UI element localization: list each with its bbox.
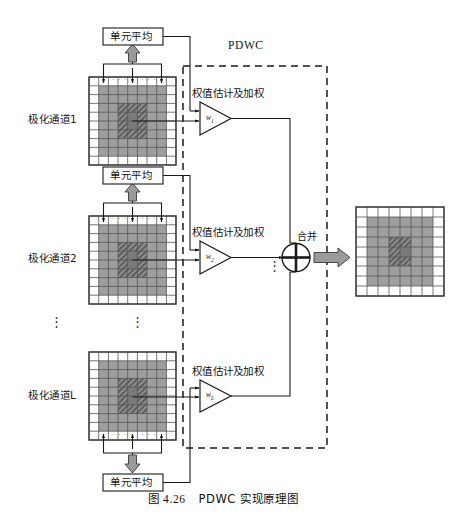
combiner-node bbox=[282, 244, 310, 272]
tap-ellipsis-La: · · · bbox=[112, 432, 128, 439]
channel-label-L: 极化通道L bbox=[28, 390, 76, 401]
weight-triangle-channel-L bbox=[200, 380, 231, 412]
avg-box-label-channel-2[interactable]: 单元平均 bbox=[110, 170, 152, 181]
channel-label-2: 极化通道2 bbox=[28, 253, 77, 264]
tap-ellipsis-Lb: · · · bbox=[141, 432, 157, 439]
weight-symbol-L: wL bbox=[206, 391, 214, 401]
figure-caption: 图 4.26 PDWC 实现原理图 bbox=[148, 494, 298, 506]
weight-triangle-channel-2 bbox=[200, 241, 231, 274]
figure-canvas: 极化通道1 极化通道2 极化通道L 单元平均 单元平均 单元平均 权值估计及加权… bbox=[0, 0, 459, 515]
weight-symbol-2: w2 bbox=[206, 253, 214, 263]
weight-estimation-label-2: 权值估计及加权 bbox=[192, 227, 264, 238]
weighted-output-line-channel-1 bbox=[231, 119, 290, 244]
avg-feed-arrow-channel-L bbox=[125, 455, 140, 473]
avg-box-label-channel-1[interactable]: 单元平均 bbox=[110, 31, 152, 42]
avg-feed-arrow-channel-1 bbox=[125, 44, 140, 62]
tap-ellipsis-1a: · · · bbox=[112, 77, 128, 84]
weight-symbol-1: w1 bbox=[206, 114, 214, 124]
channel-ellipsis-left: ⋮ bbox=[50, 318, 63, 325]
weighted-output-line-channel-L bbox=[231, 272, 290, 396]
combiner-label: 合并 bbox=[297, 232, 318, 242]
tap-ellipsis-1b: · · · bbox=[141, 77, 157, 84]
input-grid-channel-L bbox=[89, 352, 176, 440]
avg-feed-arrow-channel-2 bbox=[125, 183, 140, 201]
channel-ellipsis-grid: ⋮ bbox=[131, 318, 144, 325]
weight-estimation-label-1: 权值估计及加权 bbox=[192, 88, 264, 99]
tap-ellipsis-2a: · · · bbox=[112, 216, 128, 223]
output-grid bbox=[356, 207, 444, 296]
pdwc-label: PDWC bbox=[228, 40, 264, 52]
weight-estimation-label-L: 权值估计及加权 bbox=[192, 366, 264, 377]
tap-ellipsis-2b: · · · bbox=[141, 216, 157, 223]
weight-triangle-channel-1 bbox=[200, 102, 231, 135]
avg-box-label-channel-L[interactable]: 单元平均 bbox=[110, 477, 152, 488]
combiner-output-arrow bbox=[314, 248, 350, 267]
combiner-input-ellipsis: ⋮ bbox=[268, 262, 281, 269]
channel-label-1: 极化通道1 bbox=[28, 114, 77, 125]
